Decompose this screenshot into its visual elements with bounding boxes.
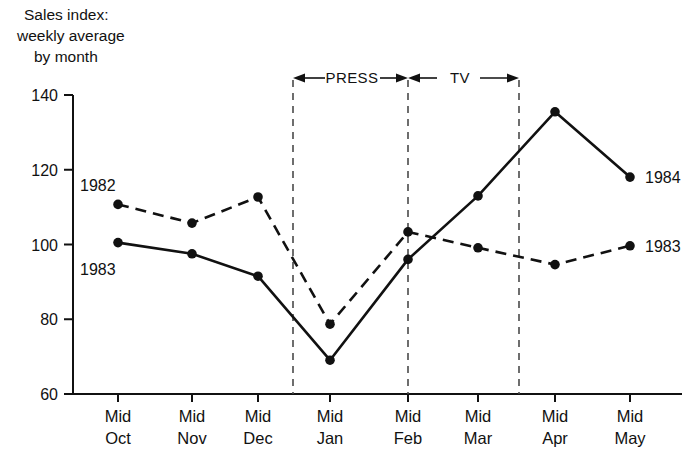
datapoint-1984-mid-jan bbox=[325, 355, 335, 365]
press-label: PRESS bbox=[326, 69, 379, 86]
x-label-mid-may-bottom: May bbox=[614, 429, 646, 447]
datapoint-1984-mid-feb bbox=[403, 255, 413, 265]
y-tick-label-120: 120 bbox=[31, 162, 58, 179]
x-label-mid-oct-bottom: Oct bbox=[105, 429, 131, 447]
campaign-annotations: PRESS TV bbox=[293, 69, 519, 86]
x-label-mid-apr-bottom: Apr bbox=[542, 429, 568, 447]
datapoint-1982-mid-nov bbox=[187, 218, 197, 228]
datapoint-1982-mid-oct bbox=[113, 200, 123, 210]
datapoint-1984-mid-mar bbox=[473, 191, 483, 201]
tv-arrow-right-head bbox=[507, 74, 519, 83]
y-tick-label-100: 100 bbox=[31, 237, 58, 254]
x-label-mid-feb-top: Mid bbox=[395, 407, 422, 425]
chart-title: Sales index: weekly average by month bbox=[16, 6, 125, 65]
series-1982-1983: 1982 1983 bbox=[80, 177, 681, 329]
x-axis-ticks bbox=[118, 394, 630, 402]
chart-title-line-2: weekly average bbox=[16, 27, 125, 44]
datapoint-1983-mid-feb bbox=[403, 227, 413, 237]
chart-title-line-3: by month bbox=[34, 48, 98, 65]
datapoint-1983-line-mid-nov bbox=[187, 249, 197, 259]
datapoint-1983-line-mid-dec bbox=[253, 271, 263, 281]
series-1983-1984: 1983 1984 bbox=[80, 107, 681, 365]
y-tick-label-140: 140 bbox=[31, 87, 58, 104]
x-label-mid-jan-bottom: Jan bbox=[317, 429, 344, 447]
datapoint-1982-mid-dec bbox=[253, 192, 263, 202]
x-label-mid-mar-bottom: Mar bbox=[464, 429, 493, 447]
series-start-label-1983: 1983 bbox=[80, 261, 116, 278]
campaign-marker-lines bbox=[293, 80, 519, 394]
y-tick-label-80: 80 bbox=[40, 311, 58, 328]
series-end-label-1984: 1984 bbox=[645, 169, 681, 186]
tv-arrow-left-head bbox=[408, 74, 420, 83]
datapoint-1983-mid-apr bbox=[550, 260, 560, 270]
x-label-mid-oct-top: Mid bbox=[105, 407, 132, 425]
datapoint-1983-mid-may bbox=[625, 241, 635, 251]
x-label-mid-feb-bottom: Feb bbox=[394, 429, 422, 447]
y-tick-label-60: 60 bbox=[40, 386, 58, 403]
x-label-mid-apr-top: Mid bbox=[542, 407, 569, 425]
datapoint-1983-mid-mar bbox=[473, 243, 483, 253]
x-label-mid-nov-top: Mid bbox=[179, 407, 206, 425]
x-label-mid-nov-bottom: Nov bbox=[177, 429, 207, 447]
sales-index-line-chart: Sales index: weekly average by month 140… bbox=[0, 0, 695, 457]
series-start-label-1982: 1982 bbox=[80, 177, 116, 194]
x-label-mid-dec-bottom: Dec bbox=[243, 429, 272, 447]
datapoint-1983-line-mid-oct bbox=[113, 238, 123, 248]
x-label-mid-dec-top: Mid bbox=[245, 407, 272, 425]
x-label-mid-jan-top: Mid bbox=[317, 407, 344, 425]
datapoint-1983-mid-jan bbox=[325, 319, 335, 329]
press-arrow-left-head bbox=[293, 74, 305, 83]
chart-title-line-1: Sales index: bbox=[24, 6, 108, 23]
tv-label: TV bbox=[450, 69, 470, 86]
x-axis-labels: Mid Oct Mid Nov Mid Dec Mid Jan Mid Feb … bbox=[105, 407, 647, 447]
x-label-mid-may-top: Mid bbox=[617, 407, 644, 425]
datapoint-1984-mid-may bbox=[625, 172, 635, 182]
y-axis-ticks: 140 120 100 80 60 bbox=[31, 87, 73, 403]
x-label-mid-mar-top: Mid bbox=[465, 407, 492, 425]
chart-page: Sales index: weekly average by month 140… bbox=[0, 0, 695, 457]
datapoint-1984-mid-apr bbox=[550, 107, 560, 117]
series-1983-1984-line bbox=[118, 112, 630, 360]
series-end-label-1983: 1983 bbox=[645, 238, 681, 255]
press-arrow-right-head bbox=[396, 74, 408, 83]
